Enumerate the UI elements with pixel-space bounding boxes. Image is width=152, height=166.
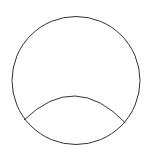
inner-arc xyxy=(24,96,126,123)
outer-circle xyxy=(12,17,140,145)
geometry-diagram xyxy=(0,0,152,166)
